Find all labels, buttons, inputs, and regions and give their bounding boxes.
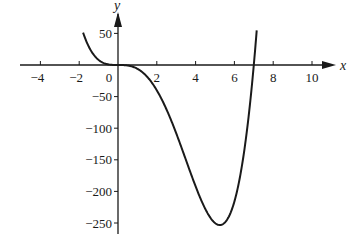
y-tick-label: −250: [85, 216, 112, 231]
x-tick-label: 4: [192, 70, 199, 85]
y-tick-label: −100: [85, 121, 112, 136]
x-tick-label: −2: [69, 70, 83, 85]
chart: −4−2024681050−50−100−150−200−250 x y: [0, 0, 348, 242]
y-axis-label: y: [112, 0, 121, 13]
x-tick-label: 0: [106, 70, 113, 85]
x-tick-label: 8: [270, 70, 277, 85]
tick-marks: [40, 33, 312, 223]
y-tick-label: −200: [85, 184, 112, 199]
x-axis-arrow-icon: [322, 61, 336, 69]
x-tick-label: 6: [231, 70, 238, 85]
y-tick-label: −50: [92, 89, 112, 104]
y-axis-arrow-icon: [114, 12, 122, 27]
x-tick-label: 2: [154, 70, 161, 85]
y-tick-label: 50: [99, 26, 112, 41]
x-axis-label: x: [339, 58, 347, 73]
x-tick-label: −4: [30, 70, 44, 85]
x-tick-label: 10: [306, 70, 319, 85]
y-tick-label: −150: [85, 152, 112, 167]
axes: [20, 12, 336, 234]
